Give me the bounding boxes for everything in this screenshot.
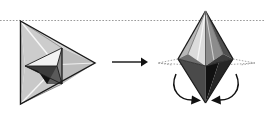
transformation-arrow-head (141, 58, 148, 67)
fold-arrow-left-head (191, 96, 201, 105)
transformation-arrow (112, 58, 148, 67)
geometry-figure (0, 0, 264, 115)
figure-canvas (0, 0, 264, 115)
left-tetrahedron-group (21, 21, 96, 104)
fold-arrow-right-head (211, 96, 221, 105)
right-bipyramid-group (158, 11, 255, 105)
